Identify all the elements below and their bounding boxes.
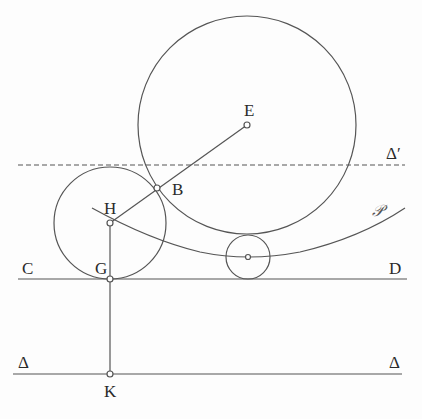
label-parabola-P: 𝒫 bbox=[372, 201, 388, 220]
point-K bbox=[107, 371, 113, 377]
label-G: G bbox=[95, 259, 107, 278]
line-HE bbox=[110, 125, 247, 223]
geometry-figure: E B H G C D K Δ Δ Δ′ 𝒫 bbox=[0, 0, 422, 419]
label-delta-right: Δ bbox=[389, 353, 400, 372]
point-G bbox=[107, 276, 113, 282]
parabola-curve bbox=[92, 208, 405, 257]
point-B bbox=[154, 185, 160, 191]
figure-svg: E B H G C D K Δ Δ Δ′ 𝒫 bbox=[0, 0, 422, 419]
label-C: C bbox=[22, 259, 33, 278]
point-small-center bbox=[246, 255, 251, 260]
point-E bbox=[244, 122, 250, 128]
label-delta-left: Δ bbox=[18, 353, 29, 372]
point-H bbox=[107, 220, 113, 226]
label-K: K bbox=[104, 382, 117, 401]
label-B: B bbox=[172, 180, 183, 199]
label-H: H bbox=[104, 199, 116, 218]
label-E: E bbox=[244, 101, 254, 120]
label-delta-prime: Δ′ bbox=[386, 144, 401, 163]
label-D: D bbox=[389, 259, 401, 278]
